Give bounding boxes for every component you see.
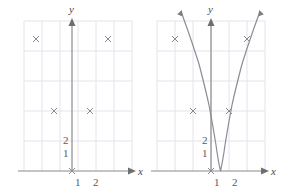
x-axis (151, 168, 269, 175)
grid-lines (24, 21, 132, 171)
x-axis-label: x (270, 165, 276, 177)
y-tick-label-2: 2 (202, 134, 208, 146)
y-tick-label-1: 1 (202, 147, 208, 159)
x-axis-label: x (137, 165, 143, 177)
y-axis (69, 18, 76, 171)
y-tick-label-2: 2 (63, 134, 69, 146)
x-tick-label-2: 2 (232, 176, 238, 188)
y-axis-label: y (207, 3, 213, 15)
two-panel-graph-figure: x y 1 2 1 2 (0, 0, 294, 193)
y-axis (208, 18, 215, 171)
point-marker (33, 36, 39, 42)
scatter-plot-svg: x y 1 2 1 2 (0, 0, 147, 193)
scatter-panel: x y 1 2 1 2 (0, 0, 147, 193)
y-axis-label: y (68, 3, 74, 15)
y-tick-label-1: 1 (63, 147, 69, 159)
parabola-panel: x y 1 2 1 2 (147, 0, 294, 193)
x-tick-label-2: 2 (93, 176, 99, 188)
parabola-plot-svg: x y 1 2 1 2 (147, 0, 294, 193)
x-tick-label-1: 1 (75, 176, 81, 188)
parabola-curve (177, 10, 264, 171)
x-tick-label-1: 1 (214, 176, 220, 188)
point-marker (105, 36, 111, 42)
x-axis (18, 168, 136, 175)
